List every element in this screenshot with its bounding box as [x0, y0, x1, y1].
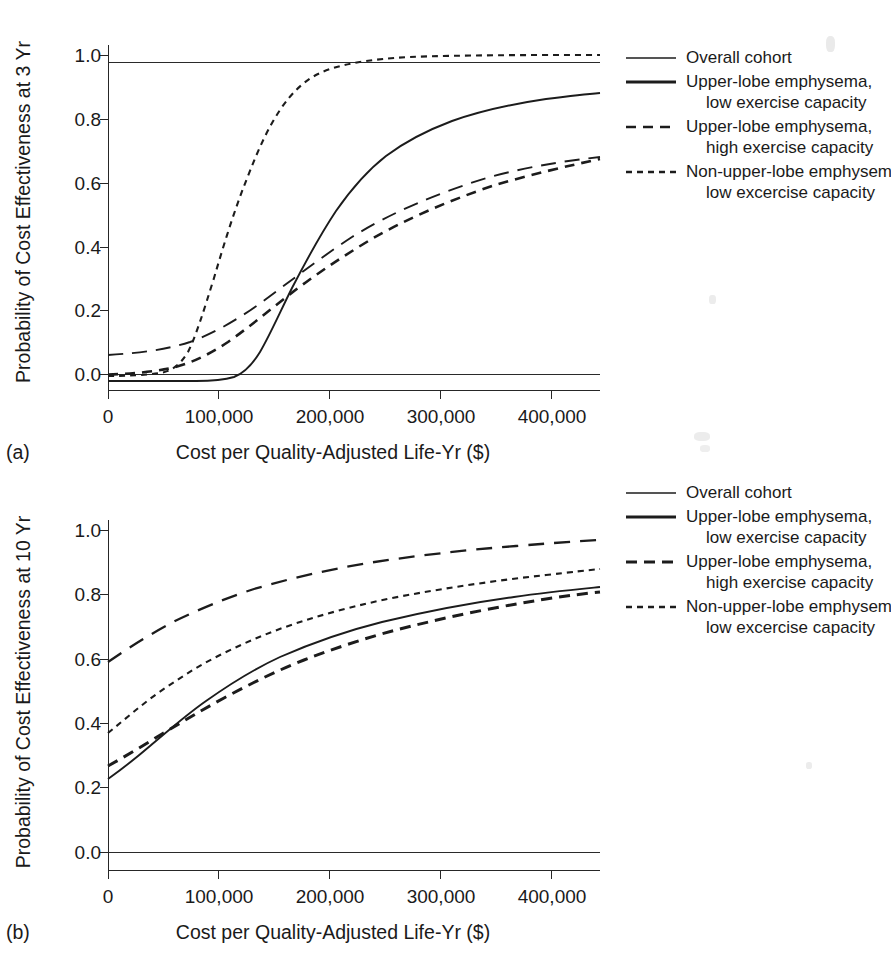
panel-b-ytick-0.6: 0.6 [75, 649, 101, 670]
panel-b-ytick-0.8: 0.8 [75, 584, 101, 605]
panel-b-y-axis-title: Probability of Cost Effectiveness at 10 … [12, 515, 34, 868]
scan-speck-3 [694, 432, 710, 441]
panel-a-legend-label-3-line1: Non-upper-lobe emphysema, [686, 162, 891, 181]
panel-b-legend-label-3-line2: low excercise capacity [706, 618, 876, 637]
scan-speck-4 [700, 445, 710, 452]
panel-b-ytick-1.0: 1.0 [75, 520, 101, 541]
panel-a-xtick-100000: 100,000 [185, 406, 254, 427]
panel-a-xtick-0: 0 [103, 406, 114, 427]
panel-b-xtick-400000: 400,000 [518, 886, 587, 907]
panel-b-xtick-100000: 100,000 [185, 886, 254, 907]
panel-b-ytick-0.2: 0.2 [75, 777, 101, 798]
panel-b-x-axis-title: Cost per Quality-Adjusted Life-Yr ($) [176, 921, 490, 943]
panel-a-legend-label-1-line2: low exercise capacity [706, 93, 867, 112]
panel-a-svg: Probability of Cost Effectiveness at 3 Y… [0, 0, 891, 484]
panel-b-xtick-0: 0 [103, 886, 114, 907]
panel-b-legend-label-1-line2: low exercise capacity [706, 528, 867, 547]
panel-a-legend-label-0-line1: Overall cohort [686, 48, 792, 67]
panel-b-legend-label-2-line2: high exercise capacity [706, 573, 874, 592]
panel-b-xtick-200000: 200,000 [296, 886, 365, 907]
panel-b-xtick-300000: 300,000 [407, 886, 476, 907]
panel-a-xtick-300000: 300,000 [407, 406, 476, 427]
panel-a-xtick-200000: 200,000 [296, 406, 365, 427]
panel-b-legend-label-2-line1: Upper-lobe emphysema, [686, 552, 872, 571]
panel-a-legend-label-2-line2: high exercise capacity [706, 138, 874, 157]
panel-a-xtick-400000: 400,000 [518, 406, 587, 427]
panel-a-curve-medium-dash [108, 159, 600, 375]
panel-a-ytick-0.6: 0.6 [75, 173, 101, 194]
panel-a-ytick-0.8: 0.8 [75, 109, 101, 130]
panel-a-legend-label-1-line1: Upper-lobe emphysema, [686, 72, 872, 91]
panel-b-curve-small-dash [108, 569, 600, 733]
panel-b-legend: Overall cohort Upper-lobe emphysema, low… [626, 483, 891, 637]
panel-a-y-axis-title: Probability of Cost Effectiveness at 3 Y… [12, 41, 34, 383]
panel-a-curve-solid [108, 93, 600, 381]
panel-b-legend-label-1-line1: Upper-lobe emphysema, [686, 507, 872, 526]
panel-b-legend-label-3-line1: Non-upper-lobe emphysema, [686, 597, 891, 616]
panel-a-legend-label-3-line2: low excercise capacity [706, 183, 876, 202]
panel-b-curve-solid [108, 587, 600, 779]
panel-b-svg: Probability of Cost Effectiveness at 10 … [0, 470, 891, 969]
scan-speck-2 [709, 295, 716, 304]
panel-b-legend-label-0-line1: Overall cohort [686, 483, 792, 502]
panel-a-ytick-0.2: 0.2 [75, 300, 101, 321]
panel-a-ytick-1.0: 1.0 [75, 45, 101, 66]
scan-speck-1 [826, 36, 835, 52]
panel-a-ytick-0.0: 0.0 [75, 364, 101, 385]
panel-a-x-axis-title: Cost per Quality-Adjusted Life-Yr ($) [176, 441, 490, 463]
panel-b-ytick-0.0: 0.0 [75, 842, 101, 863]
panel-a-legend-label-2-line1: Upper-lobe emphysema, [686, 117, 872, 136]
panel-a-ytick-0.4: 0.4 [75, 237, 102, 258]
figure-container: Probability of Cost Effectiveness at 3 Y… [0, 0, 891, 969]
panel-b-ytick-0.4: 0.4 [75, 713, 102, 734]
scan-speck-5 [806, 762, 812, 769]
panel-b: Probability of Cost Effectiveness at 10 … [0, 470, 891, 969]
panel-a: Probability of Cost Effectiveness at 3 Y… [0, 0, 891, 484]
panel-b-tag: (b) [6, 921, 30, 943]
panel-a-tag: (a) [6, 441, 30, 463]
panel-a-legend: Overall cohort Upper-lobe emphysema, low… [626, 48, 891, 202]
